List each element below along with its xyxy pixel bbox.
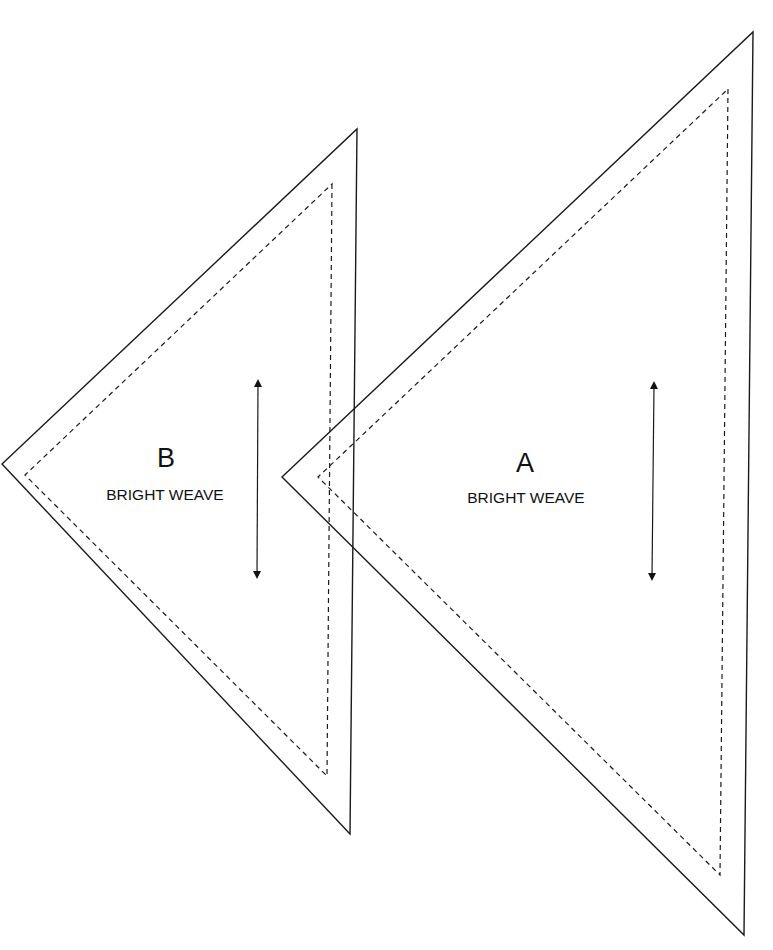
piece-a-cut-line — [282, 32, 753, 935]
piece-a-grainline-arrow — [652, 385, 654, 577]
pattern-piece-b: B BRIGHT WEAVE — [2, 129, 357, 834]
piece-a-seam-line — [318, 89, 728, 875]
piece-b-grainline-arrow — [257, 383, 258, 575]
piece-b-label: B — [157, 443, 175, 473]
pattern-diagram: B BRIGHT WEAVE A BRIGHT WEAVE — [0, 0, 773, 950]
piece-a-label: A — [516, 448, 534, 478]
piece-a-fabric-label: BRIGHT WEAVE — [467, 489, 584, 506]
piece-b-fabric-label: BRIGHT WEAVE — [106, 486, 223, 503]
pattern-piece-a: A BRIGHT WEAVE — [282, 32, 753, 935]
piece-b-cut-line — [2, 129, 357, 834]
